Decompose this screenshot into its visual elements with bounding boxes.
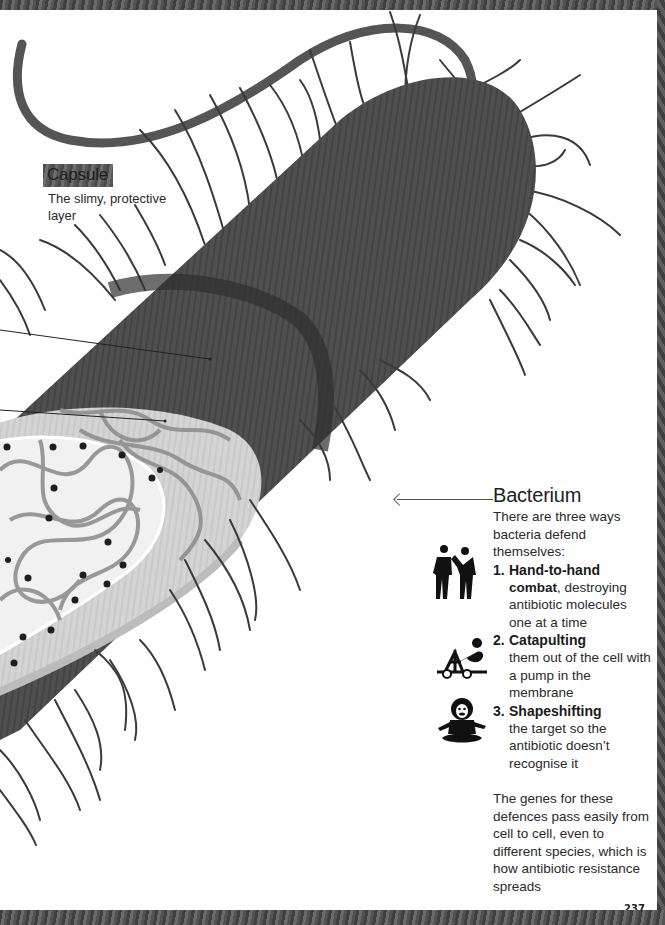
page-frame-bottom [0,910,665,925]
defence-text: the target so the antibiotic doesn’t rec… [493,720,653,773]
capsule-description: The slimy, protective layer [48,190,188,224]
defence-heading-continued: combat [509,580,557,595]
bacterium-pointer-line [397,499,493,500]
defence-heading: Hand-to-hand [509,562,600,578]
page-number: 237 [624,903,645,910]
defence-item-1: 1.Hand-to-hand combat, destroying antibi… [493,562,653,632]
defence-number: 2. [493,632,509,649]
defence-number: 1. [493,562,509,579]
meditating-monkey-icon [436,698,488,748]
bacterium-title: Bacterium [493,484,653,506]
defence-text: them out of the cell with a pump in the … [493,649,653,702]
page-frame-right [657,0,665,925]
book-page: Capsule The slimy, protective layer Bact… [0,10,657,910]
closing-paragraph: The genes for these defences pass easily… [493,790,653,895]
defence-number: 3. [493,703,509,720]
page-frame-top [0,0,665,10]
catapult-icon [433,638,489,680]
fighting-people-icon [433,545,489,601]
bacterium-intro: There are three ways bacteria defend the… [493,508,653,561]
defence-heading: Shapeshifting [509,703,602,719]
capsule-label: Capsule [43,164,113,187]
defence-item-2: 2.Catapulting them out of the cell with … [493,632,653,702]
bacterium-info: Bacterium There are three ways bacteria … [493,484,653,895]
defence-item-3: 3.Shapeshifting the target so the antibi… [493,703,653,773]
defence-heading: Catapulting [509,632,586,648]
